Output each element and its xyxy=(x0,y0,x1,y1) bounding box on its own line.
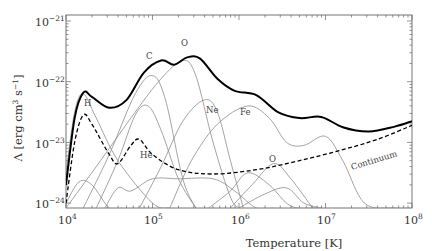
curve-o xyxy=(66,60,239,208)
label-continuum: Continuum xyxy=(350,148,399,172)
label-Ne: Ne xyxy=(206,105,218,115)
label-C: C xyxy=(146,51,153,61)
svg-text:104: 104 xyxy=(58,212,77,227)
plot-frame xyxy=(66,15,412,208)
y-tick-labels: 10−21 10−22 10−23 10−24 xyxy=(35,14,65,211)
plot-curves xyxy=(66,56,412,209)
label-O: O xyxy=(181,38,188,48)
label-O-second: O xyxy=(269,154,276,164)
svg-text:108: 108 xyxy=(404,212,423,227)
curve-minor-1 xyxy=(66,180,122,209)
label-He: He xyxy=(140,150,152,160)
curve-o-second-peak xyxy=(230,164,312,208)
curve-h xyxy=(66,94,170,209)
label-Fe: Fe xyxy=(240,107,250,117)
svg-text:106: 106 xyxy=(231,212,250,227)
svg-text:105: 105 xyxy=(144,212,163,227)
cooling-function-chart: H He C O Ne Fe O Continuum 104 105 106 1… xyxy=(0,0,432,251)
x-axis-title: Temperature [K] xyxy=(246,236,343,250)
svg-text:10−24: 10−24 xyxy=(35,196,65,211)
curve-minor-2 xyxy=(105,178,274,209)
svg-text:10−23: 10−23 xyxy=(35,136,65,151)
label-H: H xyxy=(84,98,91,108)
axis-ticks xyxy=(66,15,412,208)
y-axis-title: Λ [erg cm3 s−1] xyxy=(11,74,25,162)
svg-text:10−22: 10−22 xyxy=(35,75,65,90)
curve-minor-3 xyxy=(209,173,317,209)
svg-text:107: 107 xyxy=(317,212,336,227)
svg-text:10−21: 10−21 xyxy=(35,14,65,29)
curve-c xyxy=(83,75,196,208)
x-tick-labels: 104 105 106 107 108 xyxy=(58,212,423,227)
